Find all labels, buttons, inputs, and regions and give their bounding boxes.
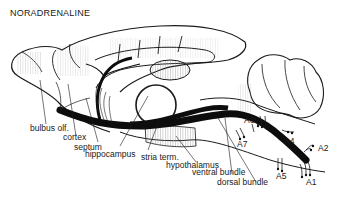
hippocampus-shape bbox=[150, 60, 190, 80]
label-a6: A6 bbox=[244, 116, 254, 125]
label-a1: A1 bbox=[306, 178, 316, 187]
label-dorsal-bundle: dorsal bundle bbox=[217, 178, 268, 187]
label-cortex: cortex bbox=[63, 133, 86, 142]
label-a7: A7 bbox=[237, 140, 247, 149]
label-a5: A5 bbox=[276, 172, 286, 181]
label-ventral-bundle: ventral bundle bbox=[192, 168, 245, 177]
label-hippocampus: hippocampus bbox=[85, 150, 136, 159]
brain-sagittal-drawing bbox=[0, 0, 341, 205]
cerebrum-outline bbox=[22, 26, 246, 92]
label-a2: A2 bbox=[318, 144, 328, 153]
cerebellum-outline bbox=[248, 55, 324, 118]
label-a4: A4 bbox=[284, 137, 294, 146]
noradrenaline-pathway-diagram: NORADRENALINE bbox=[0, 0, 341, 205]
